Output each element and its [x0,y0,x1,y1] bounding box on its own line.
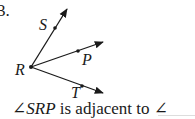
label-r: R [15,61,25,79]
angle-name: SRP [26,99,55,118]
point-t [80,84,84,88]
label-p: P [82,51,92,69]
angle-symbol: ∠ [12,99,26,118]
label-s: S [39,16,47,34]
ray-rs [31,9,67,67]
question-caption: ∠SRP is adjacent to ∠ [12,98,168,119]
vertex-point-r [29,65,33,69]
ray-rt [31,67,103,93]
answer-blank[interactable] [158,115,195,116]
point-p [76,49,80,53]
caption-text: is adjacent to ∠ [56,99,168,118]
ray-rp [31,42,103,67]
point-s [53,26,57,30]
